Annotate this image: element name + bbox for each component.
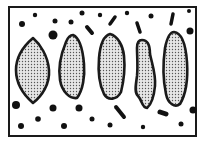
dot-particle xyxy=(33,13,37,17)
elongated-body xyxy=(99,34,125,99)
dot-particle xyxy=(50,105,57,112)
dot-particle xyxy=(90,117,95,122)
elongated-body xyxy=(164,32,188,106)
dot-particle xyxy=(76,105,83,112)
cell-diagram xyxy=(0,0,202,150)
dot-particle xyxy=(61,123,67,129)
dot-particle xyxy=(141,125,145,129)
dot-particle xyxy=(125,11,129,15)
dot-particle xyxy=(179,122,184,127)
dot-particle xyxy=(12,101,20,109)
dot-particle xyxy=(98,13,102,17)
dot-particle xyxy=(80,11,85,16)
dot-particle xyxy=(35,116,41,122)
dot-particle xyxy=(18,123,24,129)
dot-particle xyxy=(187,9,191,13)
dot-particle xyxy=(49,31,58,40)
rod-particle xyxy=(160,112,166,114)
dot-particle xyxy=(149,14,154,19)
dot-particle xyxy=(69,20,74,25)
dot-particle xyxy=(19,21,25,27)
dot-particle xyxy=(108,123,113,128)
dot-particle xyxy=(187,28,194,35)
dot-particle xyxy=(190,107,197,114)
dot-particle xyxy=(53,19,58,24)
diagram-canvas xyxy=(0,0,202,150)
rod-particle xyxy=(171,14,173,24)
